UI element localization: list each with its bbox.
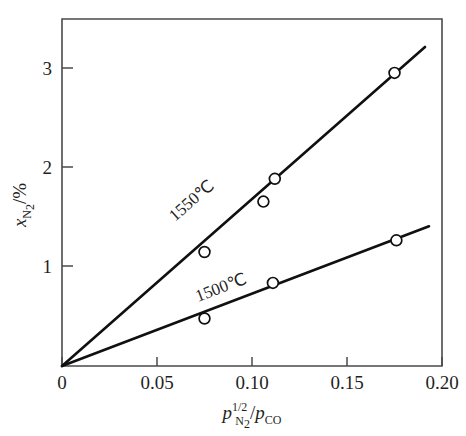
x-tick-label-010: 0.10 [235,372,268,393]
y-tick-labels: 3 2 1 [43,58,53,277]
y-axis-title: xN2/% [9,183,37,228]
plot-frame [62,19,442,366]
series-1500c: 1500℃ [62,226,429,366]
svg-text:p1/2N2/pCO: p1/2N2/pCO [221,400,282,431]
series-1550c-point-3 [269,173,280,184]
x-axis-title-p: p [221,402,233,423]
x-tick-labels: 0 0.05 0.10 0.15 0.20 [57,372,458,393]
series-1550c-point-4 [389,68,400,79]
series-1550c-fit-line [62,47,425,366]
series-1500c-label: 1500℃ [193,269,249,306]
y-tick-label-2: 2 [43,157,53,178]
x-axis-ticks [62,357,442,366]
y-axis-title-sub-n: N [20,210,34,219]
svg-text:xN2/%: xN2/% [9,183,37,228]
x-axis-title: p1/2N2/pCO [221,400,282,431]
series-1550c-label: 1550℃ [165,176,217,225]
y-tick-label-1: 1 [43,256,53,277]
series-1500c-point-3 [391,235,402,246]
x-tick-label-005: 0.05 [140,372,173,393]
x-axis-title-sub-n: N [235,414,244,428]
y-axis-title-tail: /% [9,183,30,204]
x-axis-title-co: CO [265,413,282,427]
x-tick-label-020: 0.20 [425,372,458,393]
y-axis-ticks [62,68,73,266]
series-1550c-point-1 [199,247,210,258]
chart-svg: 0 0.05 0.10 0.15 0.20 3 2 1 xN2/% p1/2N2… [0,0,466,436]
series-1550c: 1550℃ [62,47,425,366]
series-1500c-point-2 [268,278,279,289]
series-1500c-fit-line [62,226,429,366]
x-tick-label-0: 0 [57,372,67,393]
x-axis-title-p2: p [253,402,265,423]
series-1550c-point-2 [258,196,269,207]
chart-figure: 0 0.05 0.10 0.15 0.20 3 2 1 xN2/% p1/2N2… [0,0,466,436]
x-tick-label-015: 0.15 [330,372,363,393]
y-tick-label-3: 3 [43,58,53,79]
x-axis-title-sup: 1/2 [232,400,247,414]
axes-border [62,19,442,366]
series-1500c-point-1 [199,313,210,324]
